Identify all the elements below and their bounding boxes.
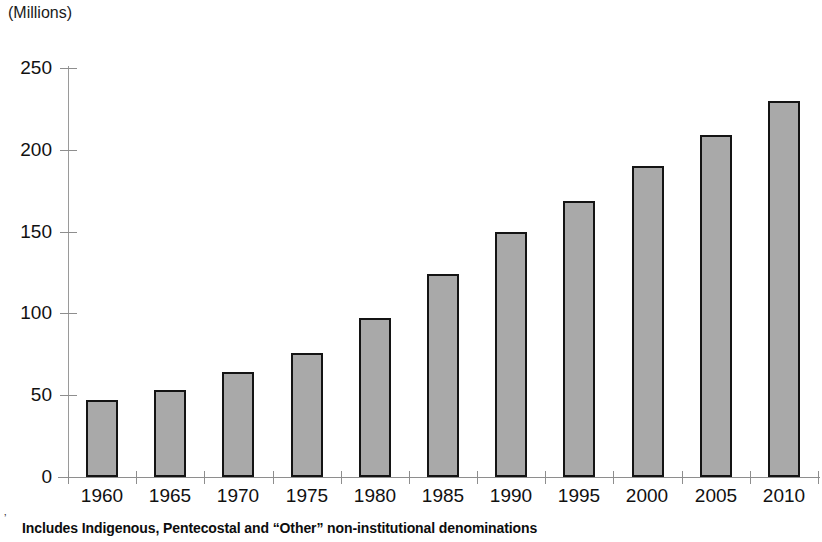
bar-chart: (Millions) 250200150100500 1960196519701… (0, 0, 822, 542)
x-axis-line (58, 477, 820, 478)
y-axis-tick-label: 250 (0, 58, 52, 77)
bar-1965 (154, 390, 186, 477)
y-axis-units-label: (Millions) (8, 3, 72, 23)
bar-2010 (768, 101, 800, 477)
x-axis-label-1970: 1970 (204, 485, 272, 507)
x-axis-label-1995: 1995 (545, 485, 613, 507)
x-axis-label-1975: 1975 (273, 485, 341, 507)
bar-1970 (222, 372, 254, 477)
x-axis-tick (273, 471, 274, 484)
bar-1975 (291, 353, 323, 477)
y-axis-tick-label-text: 100 (20, 303, 52, 322)
bar-1985 (427, 274, 459, 477)
bar-1990 (495, 232, 527, 477)
y-axis-tick-label-text: 250 (20, 58, 52, 77)
y-axis-tick (60, 313, 77, 314)
bar-2000 (632, 166, 664, 477)
x-axis-label-2010: 2010 (750, 485, 818, 507)
y-axis-tick-label-text: 150 (20, 222, 52, 241)
y-axis-tick (60, 395, 77, 396)
bar-1960 (86, 400, 118, 477)
x-axis-label-1990: 1990 (477, 485, 545, 507)
x-axis-label-2000: 2000 (613, 485, 681, 507)
y-axis-tick-label-text: 50 (31, 385, 52, 404)
y-axis-tick (60, 232, 77, 233)
bar-2005 (700, 135, 732, 477)
x-axis-tick (750, 471, 751, 484)
x-axis-label-1965: 1965 (136, 485, 204, 507)
x-axis-label-1985: 1985 (409, 485, 477, 507)
x-axis-tick (136, 471, 137, 484)
y-axis-line (68, 66, 69, 479)
y-axis-tick-label: 150 (0, 222, 52, 241)
x-axis-tick (341, 471, 342, 484)
y-axis-tick (60, 68, 77, 69)
footnote-text: Includes Indigenous, Pentecostal and “Ot… (22, 519, 537, 537)
x-axis-label-1960: 1960 (68, 485, 136, 507)
y-axis-tick-label-text: 200 (20, 140, 52, 159)
x-axis-tick (409, 471, 410, 484)
bar-1995 (563, 201, 595, 477)
x-axis-tick (68, 471, 69, 484)
x-axis-tick (204, 471, 205, 484)
bar-1980 (359, 318, 391, 477)
footnote-mark: ’ (4, 513, 6, 524)
y-axis-tick-label: 0 (0, 467, 52, 486)
y-axis-tick-label: 200 (0, 140, 52, 159)
x-axis-tick (477, 471, 478, 484)
x-axis-tick (613, 471, 614, 484)
y-axis-tick-label: 50 (0, 385, 52, 404)
y-axis-tick (60, 150, 77, 151)
x-axis-label-2005: 2005 (682, 485, 750, 507)
x-axis-tick (545, 471, 546, 484)
x-axis-tick (682, 471, 683, 484)
x-axis-tick (818, 471, 819, 484)
y-axis-tick-label: 100 (0, 303, 52, 322)
y-axis-tick-label-text: 0 (41, 467, 52, 486)
x-axis-label-1980: 1980 (341, 485, 409, 507)
